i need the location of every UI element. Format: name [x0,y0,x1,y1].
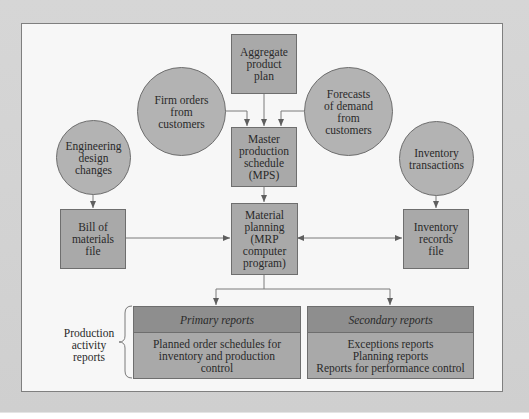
mrp-box: Material planning (MRP computer program) [231,203,298,275]
firm-orders-label: Firm orders from customers [155,94,209,130]
mps-box: Master production schedule (MPS) [231,127,297,187]
secondary-reports-text: Exceptions reports Planning reports Repo… [316,338,464,374]
bill-of-materials-box: Bill of materials file [60,209,126,269]
forecasts-label: Forecasts of demand from customers [324,88,373,136]
primary-reports-body: Planned order schedules for inventory an… [134,333,300,379]
primary-reports-text: Planned order schedules for inventory an… [153,338,281,374]
primary-reports-title: Primary reports [134,307,300,333]
inventory-transactions-circle: Inventory transactions [399,121,474,196]
secondary-reports-title: Secondary reports [308,307,473,333]
bill-of-materials-label: Bill of materials file [72,221,114,257]
primary-reports-box: Primary reports Planned order schedules … [133,306,301,379]
inventory-records-label: Inventory records file [414,221,459,257]
aggregate-product-plan-label: Aggregate product plan [240,46,288,82]
production-activity-reports-label: Production activity reports [58,327,120,363]
inventory-transactions-label: Inventory transactions [409,147,464,171]
firm-orders-circle: Firm orders from customers [137,67,226,156]
engineering-changes-label: Engineering design changes [65,140,121,176]
inventory-records-box: Inventory records file [403,209,469,269]
secondary-reports-box: Secondary reports Exceptions reports Pla… [307,306,474,379]
mps-label: Master production schedule (MPS) [239,133,289,181]
mrp-label: Material planning (MRP computer program) [243,209,286,269]
secondary-reports-body: Exceptions reports Planning reports Repo… [308,333,473,379]
engineering-changes-circle: Engineering design changes [56,120,131,195]
forecasts-circle: Forecasts of demand from customers [304,67,393,156]
aggregate-product-plan-box: Aggregate product plan [231,34,297,94]
